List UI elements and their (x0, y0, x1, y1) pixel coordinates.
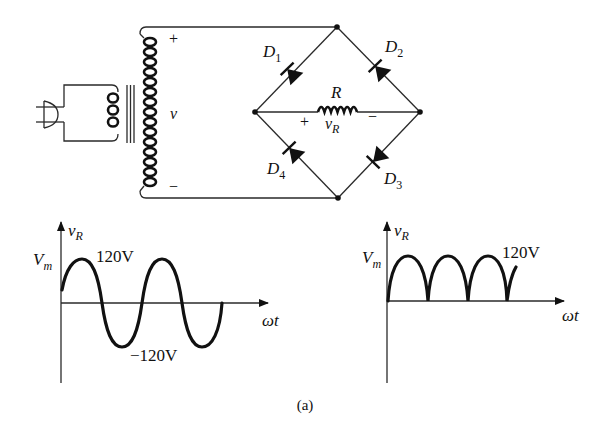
diode-d1-label: D1 (262, 42, 281, 65)
output-waveform-graph: vR Vm 120V ωt (362, 221, 580, 383)
input-y-label: vR (68, 221, 84, 243)
rectified-wave-trace (388, 256, 516, 301)
output-y-label: vR (394, 221, 410, 243)
resistor-voltage-label: vR (325, 115, 340, 136)
input-waveform-graph: vR Vm 120V −120V ωt (33, 221, 280, 383)
transformer-core (127, 85, 134, 143)
diode-d3-label: D3 (383, 169, 402, 192)
output-peak-label: 120V (502, 243, 541, 262)
resistor-label: R (330, 83, 342, 102)
secondary-voltage-label: v (170, 105, 178, 122)
input-vm-label: Vm (33, 250, 52, 273)
secondary-plus-label: + (169, 30, 178, 47)
resistor-icon (318, 107, 357, 112)
ac-plug (36, 101, 64, 128)
figure: + v − D1 D2 D4 D3 R + − vR (0, 0, 611, 433)
primary-coil-icon (108, 94, 118, 127)
input-x-label: ωt (262, 311, 280, 330)
output-x-label: ωt (562, 306, 580, 325)
diode-d2-label: D2 (384, 37, 403, 60)
secondary-coil-icon (144, 38, 156, 186)
figure-caption: (a) (297, 397, 314, 414)
input-peak-label: 120V (96, 247, 135, 266)
diode-d4-label: D4 (266, 159, 285, 182)
input-trough-label: −120V (130, 346, 178, 365)
secondary-minus-label: − (169, 178, 178, 195)
transformer-primary (64, 85, 118, 141)
resistor-minus-label: − (368, 108, 377, 125)
resistor-plus-label: + (300, 113, 309, 130)
output-vm-label: Vm (362, 248, 381, 271)
